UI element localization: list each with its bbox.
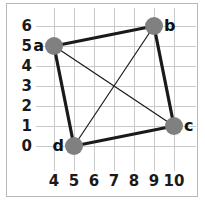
y-axis-tick-label: 1	[22, 119, 32, 134]
x-axis-tick-label: 10	[164, 174, 185, 189]
y-axis-tick-label: 0	[22, 139, 32, 154]
graph-node-label-a: a	[33, 38, 44, 54]
graph-node-b	[145, 17, 163, 35]
y-axis-tick-label: 5	[22, 39, 32, 54]
graph-node-d	[65, 137, 83, 155]
graph-node-a	[45, 37, 63, 55]
graph-edge-b-c	[154, 26, 174, 126]
graph-node-c	[165, 117, 183, 135]
x-axis-tick-label: 5	[69, 174, 79, 189]
graph-figure: 456789100123456abcd	[0, 0, 205, 204]
graph-node-label-d: d	[53, 138, 64, 154]
graph-edge-d-a	[54, 46, 74, 146]
graph-edge-a-b	[54, 26, 154, 46]
y-axis-tick-label: 3	[22, 79, 32, 94]
graph-edge-c-d	[74, 126, 174, 146]
x-axis-tick-label: 6	[89, 174, 99, 189]
y-axis-tick-label: 6	[22, 19, 32, 34]
y-axis-tick-label: 2	[22, 99, 32, 114]
x-axis-tick-label: 8	[129, 174, 139, 189]
y-axis-tick-label: 4	[22, 59, 32, 74]
graph-node-label-b: b	[164, 18, 175, 34]
x-axis-tick-label: 7	[109, 174, 119, 189]
x-axis-tick-label: 4	[49, 174, 59, 189]
tick-marks	[54, 166, 174, 171]
x-axis-tick-label: 9	[149, 174, 159, 189]
graph-node-label-c: c	[184, 118, 193, 134]
